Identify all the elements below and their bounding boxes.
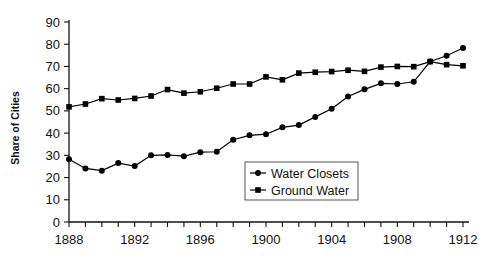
data-point — [214, 149, 220, 155]
data-point — [280, 77, 286, 83]
legend-label: Water Closets — [271, 167, 349, 181]
data-point — [444, 62, 450, 68]
series-1 — [66, 45, 466, 174]
x-axis-tick-label: 1892 — [120, 232, 149, 247]
data-point — [296, 70, 302, 76]
data-point — [395, 64, 401, 70]
data-point — [263, 131, 269, 137]
data-point — [247, 132, 253, 138]
data-point — [198, 89, 204, 95]
data-point — [181, 153, 187, 159]
chart-legend: Water ClosetsGround Water — [245, 162, 358, 200]
y-axis-tick-label: 60 — [46, 81, 60, 96]
data-point — [247, 81, 253, 87]
line-chart: 0102030405060708090 18881892189619001904… — [0, 0, 485, 271]
y-axis-tick-label: 20 — [46, 170, 60, 185]
x-axis-tick-label: 1896 — [186, 232, 215, 247]
data-point — [132, 163, 138, 169]
data-point — [132, 96, 138, 102]
data-point — [99, 168, 105, 174]
data-point — [378, 80, 384, 86]
data-point — [312, 69, 318, 75]
data-point — [411, 64, 417, 70]
data-point — [115, 97, 121, 103]
x-axis-tick-label: 1908 — [383, 232, 412, 247]
x-axis-tick-label: 1900 — [252, 232, 281, 247]
y-axis-tick-label: 50 — [46, 103, 60, 118]
data-point — [444, 53, 450, 59]
x-axis-tick-label: 1912 — [449, 232, 478, 247]
legend-marker — [255, 170, 261, 176]
data-point — [197, 149, 203, 155]
data-point — [345, 93, 351, 99]
data-point — [296, 122, 302, 128]
y-axis-tick-label: 0 — [53, 215, 60, 230]
x-axis-tick-label: 1904 — [317, 232, 346, 247]
series-line — [69, 62, 463, 107]
data-point — [411, 79, 417, 85]
legend-marker — [255, 187, 261, 193]
x-axis: 1888189218961900190419081912 — [55, 222, 478, 247]
data-point — [99, 96, 105, 102]
data-point — [427, 59, 433, 65]
data-point — [66, 104, 72, 110]
data-point — [460, 45, 466, 51]
x-axis-tick-label: 1888 — [55, 232, 84, 247]
data-point — [148, 152, 154, 158]
data-point — [345, 67, 351, 73]
data-point — [214, 85, 220, 91]
data-point — [279, 124, 285, 130]
y-axis: 0102030405060708090 — [46, 15, 69, 230]
data-point — [460, 63, 466, 69]
data-point — [83, 101, 89, 107]
legend-label: Ground Water — [271, 184, 349, 198]
data-point — [329, 69, 335, 75]
data-point — [312, 114, 318, 120]
data-point — [230, 81, 236, 87]
data-point — [263, 74, 269, 80]
data-point — [165, 87, 171, 93]
series-2 — [66, 59, 466, 110]
data-point — [362, 69, 368, 75]
data-point — [66, 156, 72, 162]
y-axis-tick-label: 40 — [46, 126, 60, 141]
data-point — [394, 81, 400, 87]
y-axis-tick-label: 30 — [46, 148, 60, 163]
data-point — [115, 160, 121, 166]
y-axis-tick-label: 90 — [46, 15, 60, 30]
y-axis-title-text: Share of Cities — [9, 91, 21, 165]
data-point — [378, 64, 384, 70]
data-point — [148, 93, 154, 99]
chart-container: 0102030405060708090 18881892189619001904… — [0, 0, 485, 271]
data-point — [82, 165, 88, 171]
data-point — [230, 137, 236, 143]
y-axis-tick-label: 70 — [46, 59, 60, 74]
data-point — [165, 152, 171, 158]
data-point — [329, 106, 335, 112]
y-axis-title: Share of Cities — [9, 91, 21, 165]
y-axis-tick-label: 10 — [46, 192, 60, 207]
series-layer — [66, 45, 466, 174]
data-point — [181, 90, 187, 96]
data-point — [362, 86, 368, 92]
y-axis-tick-label: 80 — [46, 37, 60, 52]
